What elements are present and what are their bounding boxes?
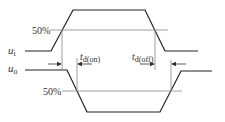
output-signal-label: uo [8,62,18,76]
td-off-label: td(off) [132,51,154,64]
input-50-label: 50% [32,25,50,36]
td-on-label: td(on) [80,51,100,64]
output-50-label: 50% [43,86,61,97]
input-waveform [25,10,198,51]
input-signal-label: ui [8,44,17,58]
timing-diagram: ui uo 50% 50% td(on) td(off) [0,0,225,122]
